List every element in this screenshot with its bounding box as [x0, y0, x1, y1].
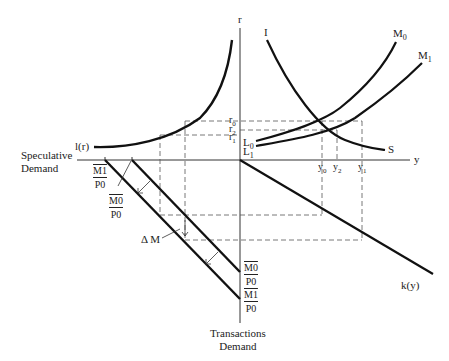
transactions-demand-label: k(y) — [401, 280, 419, 291]
m0-over-p0-left: M0 P0 — [109, 196, 123, 220]
lm0-curve — [256, 42, 396, 141]
y1-label: y1 — [358, 162, 367, 175]
r1-label: r1 — [229, 132, 236, 145]
m1-over-p0-left: M1 P0 — [93, 166, 107, 190]
y2-label: y2 — [333, 162, 342, 175]
transactions-demand-line — [240, 160, 433, 274]
y-axis-label: y — [414, 154, 420, 165]
delta-m-label: Δ M — [141, 234, 160, 245]
shift-arrows — [138, 181, 218, 264]
r-axis-label: r — [238, 14, 242, 25]
budget-line-m0 — [132, 160, 240, 272]
y0-label: y0 — [318, 162, 327, 175]
saving-label: S — [388, 144, 394, 155]
transactions-demand-caption: Transactions Demand — [210, 327, 266, 352]
m1-over-p0-bottom: M1 P0 — [244, 290, 258, 314]
l1-label: L1 — [243, 146, 254, 160]
m1-label: M1 — [418, 50, 432, 64]
is-lm-diagram-canvas — [0, 0, 449, 361]
liquidity-preference-label: l(r) — [75, 141, 89, 152]
investment-label: I — [264, 27, 268, 38]
liquidity-preference-curve — [94, 40, 232, 147]
speculative-demand-caption: Speculative Demand — [21, 149, 72, 174]
budget-line-m1 — [105, 160, 240, 299]
m0-over-p0-bottom: M0 P0 — [244, 263, 258, 287]
m0-label: M0 — [393, 28, 407, 42]
